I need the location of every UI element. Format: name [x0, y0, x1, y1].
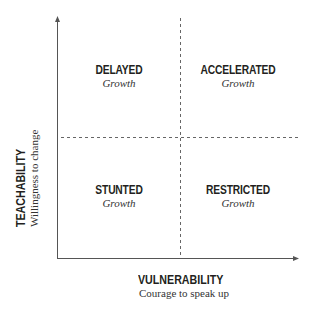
quadrant-bottom-right: RESTRICTED Growth: [183, 184, 293, 210]
quadrant-bottom-left: STUNTED Growth: [64, 184, 174, 210]
y-axis-title: TEACHABILITY: [14, 147, 28, 227]
quadrant-title: STUNTED: [74, 184, 164, 197]
y-axis-subtitle: Willingness to change: [28, 130, 41, 227]
x-axis-title: VULNERABILITY: [138, 273, 223, 287]
quadrant-diagram: DELAYED Growth ACCELERATED Growth STUNTE…: [0, 0, 317, 318]
quadrant-title: ACCELERATED: [193, 64, 283, 77]
x-axis-label: VULNERABILITY Courage to speak up: [138, 273, 242, 300]
quadrant-subtitle: Growth: [64, 77, 174, 90]
quadrant-title: DELAYED: [74, 64, 164, 77]
quadrant-subtitle: Growth: [64, 197, 174, 210]
x-axis-subtitle: Courage to speak up: [139, 287, 243, 300]
quadrant-top-left: DELAYED Growth: [64, 64, 174, 90]
x-axis-arrow-icon: [293, 256, 299, 261]
y-axis-arrow-icon: [55, 16, 60, 22]
y-axis-label: TEACHABILITY Willingness to change: [14, 130, 41, 227]
quadrant-title: RESTRICTED: [193, 184, 283, 197]
quadrant-top-right: ACCELERATED Growth: [183, 64, 293, 90]
quadrant-subtitle: Growth: [183, 197, 293, 210]
axes-graphic: [0, 0, 317, 318]
quadrant-subtitle: Growth: [183, 77, 293, 90]
